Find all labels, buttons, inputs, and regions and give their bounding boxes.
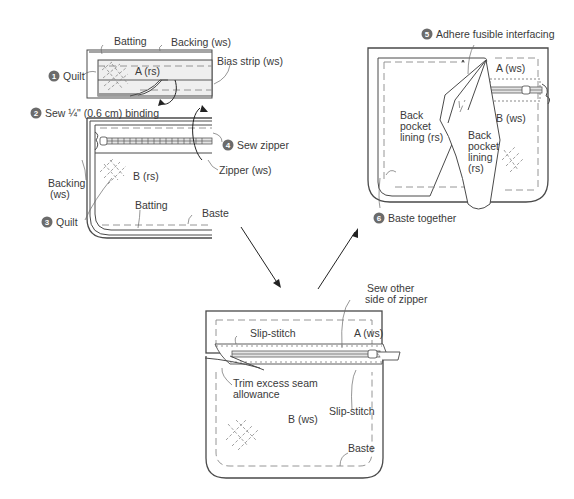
label-trim-2: allowance xyxy=(233,388,280,400)
zipper-pull-icon xyxy=(100,137,107,145)
label-slip-stitch-top: Slip-stitch xyxy=(250,327,296,339)
label-b-rs: B (rs) xyxy=(133,170,159,182)
label-zipper-ws: Zipper (ws) xyxy=(219,164,272,176)
step-2: 2 Sew ¼" (0.6 cm) binding xyxy=(31,107,160,119)
step-label: Baste together xyxy=(388,212,457,224)
label-slip-stitch-right: Slip-stitch xyxy=(329,405,375,417)
step-3: 3 Quilt xyxy=(42,216,78,228)
panel-3: Sew other side of zipper Slip-stitch A (… xyxy=(205,282,428,478)
step-4: 4 Sew zipper xyxy=(223,139,290,151)
label-b-ws: B (ws) xyxy=(496,112,526,124)
step-6: 6 Baste together xyxy=(374,212,457,224)
label-batting: Batting xyxy=(114,35,147,47)
fold-arrow-icon xyxy=(193,108,202,160)
step-label: Quilt xyxy=(56,216,78,228)
label-bias-strip: Bias strip (ws) xyxy=(217,55,283,67)
label-flap-4: (rs) xyxy=(468,162,484,174)
svg-text:6: 6 xyxy=(377,214,382,223)
label-b-ws: B (ws) xyxy=(288,413,318,425)
label-a-ws: A (ws) xyxy=(496,62,525,74)
arrow-down-right-icon xyxy=(241,227,278,284)
panel-1: Batting Backing (ws) Bias strip (ws) A (… xyxy=(31,35,290,238)
step-label: Quilt xyxy=(63,70,85,82)
flow-arrows xyxy=(241,227,358,289)
step-label: Sew zipper xyxy=(237,139,289,151)
label-baste: Baste xyxy=(202,207,229,219)
label-sew-other-2: side of zipper xyxy=(365,293,428,305)
quilt-stitching-icon xyxy=(226,420,258,450)
svg-text:1: 1 xyxy=(52,72,57,81)
svg-text:5: 5 xyxy=(425,30,430,39)
label-back-3: lining (rs) xyxy=(400,131,443,143)
zipper-pull-icon xyxy=(368,350,377,358)
diagram-canvas: Batting Backing (ws) Bias strip (ws) A (… xyxy=(0,0,574,499)
step-1: 1 Quilt xyxy=(49,70,85,82)
svg-text:4: 4 xyxy=(226,141,231,150)
label-a-ws: A (ws) xyxy=(354,327,383,339)
arrow-up-right-icon xyxy=(318,232,355,289)
zipper xyxy=(95,132,212,150)
label-backing-ws-paren: (ws) xyxy=(50,188,70,200)
label-backing-ws: Backing (ws) xyxy=(171,36,231,48)
quilt-stitching-icon xyxy=(502,146,524,172)
label-a-rs: A (rs) xyxy=(135,65,160,77)
quilt-stitching-icon xyxy=(100,158,126,184)
svg-text:3: 3 xyxy=(45,218,50,227)
step-label: Sew ¼" (0.6 cm) binding xyxy=(45,107,159,119)
label-baste: Baste xyxy=(348,442,375,454)
svg-text:2: 2 xyxy=(34,109,39,118)
label-batting-bottom: Batting xyxy=(135,199,168,211)
panel-2: 5 Adhere fusible interfacing A (ws) B (w… xyxy=(368,28,555,224)
step-5: 5 Adhere fusible interfacing xyxy=(422,28,555,40)
step-label: Adhere fusible interfacing xyxy=(436,28,555,40)
zipper-pull-icon xyxy=(522,86,530,94)
